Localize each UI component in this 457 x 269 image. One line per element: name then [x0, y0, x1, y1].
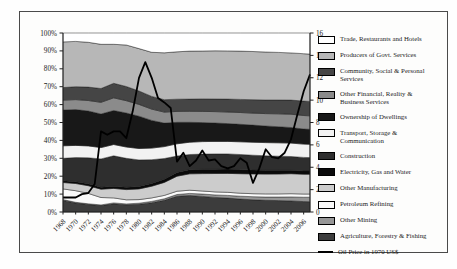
y-left-tick-label: 100%	[40, 30, 57, 38]
y-left-tick-label: 70%	[44, 83, 57, 91]
y-left-tick-label: 0%	[47, 209, 57, 217]
legend-item-construction: Construction	[318, 152, 434, 161]
y-left-tick-label: 10%	[44, 191, 57, 199]
legend-item-producers-of-govt-services: Producers of Govt. Services	[318, 51, 434, 60]
x-axis-labels: 1968197019721974197619781980198219841986…	[52, 217, 309, 233]
legend: Trade, Restaurants and HotelsProducers o…	[318, 35, 434, 263]
legend-swatch-other-manufacturing	[318, 184, 335, 192]
legend-label: Community, Social & Personal Services	[340, 67, 434, 82]
y-left-tick-label: 40%	[44, 137, 57, 145]
legend-swatch-agriculture-forestry-fishing	[318, 233, 335, 241]
legend-line-swatch-oil-price-in-1970-us	[318, 251, 333, 253]
legend-item-ownership-of-dwellings: Ownership of Dwellings	[318, 113, 434, 122]
legend-swatch-transport-storage-communication	[318, 129, 335, 137]
legend-item-community-social-personal-services: Community, Social & Personal Services	[318, 67, 434, 82]
legend-label: Electricity, Gas and Water	[340, 168, 411, 176]
legend-label: Other Financial, Reality & Business Serv…	[340, 90, 434, 105]
legend-swatch-producers-of-govt-services	[318, 52, 335, 60]
legend-label: Agriculture, Forestry & Fishing	[340, 232, 426, 240]
y-left-tick-label: 80%	[44, 65, 57, 73]
legend-label: Other Manufacturing	[340, 184, 398, 192]
legend-item-transport-storage-communication: Transport, Storage & Communication	[318, 129, 434, 144]
legend-label: Producers of Govt. Services	[340, 51, 416, 59]
stacked-areas	[63, 33, 310, 212]
legend-item-other-financial-reality-business-services: Other Financial, Reality & Business Serv…	[318, 90, 434, 105]
y-left-tick-label: 60%	[44, 101, 57, 109]
legend-label: Construction	[340, 152, 375, 160]
x-tick-label: 2006	[292, 217, 308, 233]
legend-swatch-ownership-of-dwellings	[318, 113, 335, 121]
legend-item-other-manufacturing: Other Manufacturing	[318, 184, 434, 193]
legend-label: Trade, Restaurants and Hotels	[340, 35, 422, 43]
legend-label: Other Mining	[340, 216, 377, 224]
legend-item-agriculture-forestry-fishing: Agriculture, Forestry & Fishing	[318, 232, 434, 241]
y-axis-left-labels: 0%10%20%30%40%50%60%70%80%90%100%	[40, 30, 57, 217]
legend-swatch-other-financial-reality-business-services	[318, 91, 335, 99]
legend-swatch-community-social-personal-services	[318, 68, 335, 76]
legend-label: Petroleum Refining	[340, 200, 393, 208]
legend-item-petroleum-refining: Petroleum Refining	[318, 200, 434, 209]
y-left-tick-label: 20%	[44, 173, 57, 181]
legend-label: Oil Price in 1970 US$	[338, 248, 398, 256]
figure: 0%10%20%30%40%50%60%70%80%90%100%0246810…	[0, 0, 457, 269]
legend-label: Transport, Storage & Communication	[340, 129, 434, 144]
legend-swatch-petroleum-refining	[318, 201, 335, 209]
y-left-tick-label: 30%	[44, 155, 57, 163]
y-left-tick-label: 90%	[44, 47, 57, 55]
legend-swatch-trade-restaurants-and-hotels	[318, 36, 335, 44]
legend-swatch-electricity-gas-and-water	[318, 168, 335, 176]
legend-item-other-mining: Other Mining	[318, 216, 434, 225]
legend-label: Ownership of Dwellings	[340, 113, 407, 121]
legend-item-electricity-gas-and-water: Electricity, Gas and Water	[318, 168, 434, 177]
legend-item-trade-restaurants-and-hotels: Trade, Restaurants and Hotels	[318, 35, 434, 44]
legend-swatch-construction	[318, 152, 335, 160]
y-left-tick-label: 50%	[44, 119, 57, 127]
legend-swatch-other-mining	[318, 217, 335, 225]
legend-item-oil-price-in-1970-us: Oil Price in 1970 US$	[318, 248, 434, 256]
